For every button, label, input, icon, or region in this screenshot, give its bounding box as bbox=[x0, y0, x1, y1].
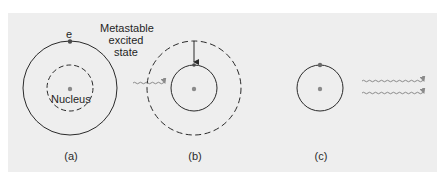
nucleus-icon bbox=[318, 87, 322, 91]
metastable-state-label: Metastable excited state bbox=[100, 22, 152, 58]
state-label-line: excited bbox=[100, 34, 152, 46]
state-label-line: Metastable bbox=[100, 22, 152, 34]
electron-icon bbox=[318, 63, 322, 67]
caption-c: (c) bbox=[315, 150, 328, 162]
panel-c bbox=[297, 63, 343, 111]
caption-a: (a) bbox=[64, 150, 77, 162]
incoming-photon-icon bbox=[133, 82, 165, 84]
nucleus-label: Nucleus bbox=[51, 93, 91, 105]
nucleus-icon bbox=[192, 87, 196, 91]
outgoing-photon-icon bbox=[362, 92, 424, 94]
electron-label: e bbox=[66, 28, 72, 40]
state-label-line: state bbox=[100, 46, 152, 58]
outgoing-photon-icon bbox=[362, 80, 424, 82]
electron-icon bbox=[192, 63, 196, 67]
panel-b bbox=[147, 41, 241, 135]
caption-b: (b) bbox=[188, 150, 201, 162]
nucleus-icon bbox=[68, 87, 72, 91]
